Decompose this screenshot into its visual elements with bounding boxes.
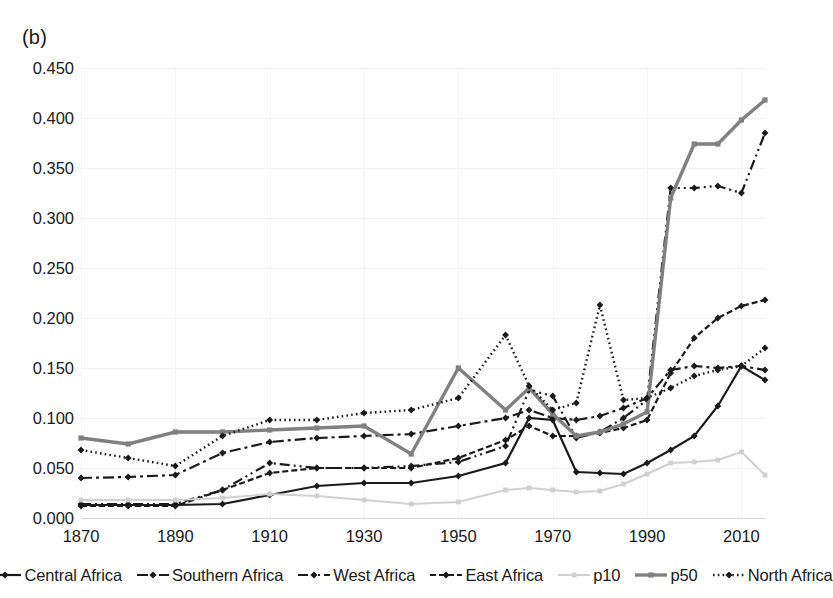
y-axis-labels: 0.0000.0500.1000.1500.2000.2500.3000.350…	[0, 0, 74, 598]
data-point-marker	[502, 415, 509, 422]
series-line	[81, 305, 765, 466]
series-layer	[81, 68, 765, 518]
data-point-marker	[715, 458, 720, 463]
data-point-marker	[266, 470, 273, 477]
data-point-marker	[314, 494, 319, 499]
data-point-marker	[691, 363, 698, 370]
series-line	[81, 133, 765, 504]
data-point-marker	[408, 431, 415, 438]
series-line	[81, 366, 765, 478]
data-point-marker	[738, 190, 745, 197]
y-axis-tick-label: 0.000	[6, 509, 74, 528]
data-point-marker	[691, 185, 698, 192]
data-point-marker	[409, 451, 414, 456]
data-point-marker	[78, 435, 83, 440]
data-point-marker	[762, 130, 769, 137]
data-point-marker	[573, 469, 580, 476]
data-point-marker	[78, 475, 85, 482]
data-point-marker	[762, 345, 769, 352]
legend-item-p50[interactable]: p50	[634, 566, 697, 585]
legend-label: Southern Africa	[172, 566, 283, 585]
legend-item-north-africa[interactable]: North Africa	[712, 566, 833, 585]
data-point-marker	[620, 397, 627, 404]
legend-swatch-southern-africa	[136, 568, 170, 582]
y-axis-tick-label: 0.450	[6, 59, 74, 78]
data-point-marker	[596, 302, 603, 309]
data-point-marker	[266, 439, 273, 446]
data-point-marker	[172, 472, 179, 479]
data-point-marker	[668, 195, 673, 200]
data-point-marker	[455, 395, 462, 402]
data-point-marker	[79, 498, 84, 503]
data-point-marker	[78, 447, 85, 454]
data-point-marker	[266, 417, 273, 424]
legend-item-central-africa[interactable]: Central Africa	[0, 566, 122, 585]
data-point-marker	[620, 471, 627, 478]
data-point-marker	[762, 97, 767, 102]
data-point-marker	[596, 470, 603, 477]
data-point-marker	[526, 407, 533, 414]
legend-swatch-west-africa	[297, 568, 331, 582]
data-point-marker	[714, 183, 721, 190]
data-point-marker	[762, 367, 769, 374]
data-point-marker	[313, 435, 320, 442]
series-west-africa	[78, 130, 769, 508]
data-point-marker	[596, 413, 603, 420]
data-point-marker	[456, 500, 461, 505]
data-point-marker	[125, 455, 132, 462]
data-point-marker	[266, 460, 273, 467]
data-point-marker	[503, 407, 508, 412]
y-axis-tick-label: 0.150	[6, 359, 74, 378]
data-point-marker	[125, 474, 132, 481]
legend-item-southern-africa[interactable]: Southern Africa	[136, 566, 283, 585]
y-axis-tick-label: 0.400	[6, 109, 74, 128]
data-point-marker	[502, 443, 509, 450]
data-point-marker	[173, 498, 178, 503]
legend-item-p10[interactable]: p10	[557, 566, 620, 585]
data-point-marker	[361, 480, 368, 487]
data-point-marker	[219, 487, 226, 494]
data-point-marker	[361, 410, 368, 417]
data-point-marker	[456, 365, 461, 370]
x-axis-line	[81, 518, 765, 519]
data-point-marker	[645, 472, 650, 477]
data-point-marker	[549, 433, 556, 440]
x-axis-tick-label: 1870	[63, 527, 100, 546]
data-point-marker	[220, 496, 225, 501]
series-line	[81, 100, 765, 454]
data-point-marker	[126, 498, 131, 503]
data-point-marker	[455, 473, 462, 480]
data-point-marker	[409, 502, 414, 507]
y-axis-tick-label: 0.200	[6, 309, 74, 328]
data-point-marker	[361, 433, 368, 440]
data-point-marker	[455, 455, 462, 462]
data-point-marker	[692, 460, 697, 465]
data-point-marker	[739, 450, 744, 455]
data-point-marker	[550, 488, 555, 493]
legend-label: p50	[670, 566, 697, 585]
legend-label: West Africa	[333, 566, 415, 585]
data-point-marker	[527, 486, 532, 491]
chart-legend: Central AfricaSouthern AfricaWest Africa…	[0, 559, 821, 591]
data-point-marker	[715, 141, 720, 146]
x-axis-tick-label: 1930	[346, 527, 383, 546]
data-point-marker	[621, 482, 626, 487]
x-axis-tick-label: 1890	[157, 527, 194, 546]
data-point-marker	[598, 489, 603, 494]
series-line	[81, 300, 765, 506]
series-p10	[79, 450, 768, 507]
legend-item-west-africa[interactable]: West Africa	[297, 566, 415, 585]
data-point-marker	[574, 490, 579, 495]
data-point-marker	[172, 463, 179, 470]
x-axis-tick-label: 1950	[440, 527, 477, 546]
data-point-marker	[361, 423, 366, 428]
data-point-marker	[762, 297, 769, 304]
legend-item-east-africa[interactable]: East Africa	[429, 566, 543, 585]
data-point-marker	[313, 483, 320, 490]
plot-area	[81, 68, 765, 518]
data-point-marker	[644, 409, 649, 414]
data-point-marker	[267, 427, 272, 432]
x-axis-tick-label: 1970	[534, 527, 571, 546]
legend-swatch-east-africa	[429, 568, 463, 582]
